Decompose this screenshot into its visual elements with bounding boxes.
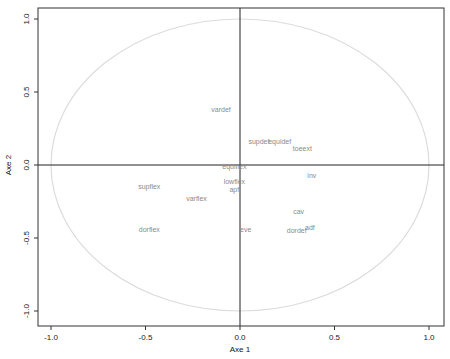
variable-label-dorflex: dorflex	[139, 226, 161, 233]
x-tick-label: -1.0	[44, 333, 58, 342]
variable-label-apf: apf	[229, 186, 239, 194]
variable-label-lowflex: lowflex	[224, 178, 246, 185]
x-tick-label: 0.0	[234, 333, 246, 342]
variable-label-cav: cav	[293, 208, 304, 215]
y-axis-title: Axe 2	[4, 154, 13, 175]
y-tick-label: -1.0	[22, 304, 31, 318]
x-tick-label: 1.0	[423, 333, 435, 342]
y-tick-label: 0.5	[22, 86, 31, 98]
variable-label-toeext: toeext	[293, 145, 312, 152]
variable-label-supflex: supflex	[138, 183, 161, 191]
y-tick-label: 1.0	[22, 13, 31, 25]
x-tick-label: 0.5	[329, 333, 341, 342]
x-axis-title: Axe 1	[230, 345, 251, 354]
variable-label-vardef: vardef	[211, 106, 231, 113]
variable-label-equidef: equidef	[268, 138, 291, 146]
y-tick-label: 0.0	[22, 159, 31, 171]
variable-labels: vardefsupdefequideftoeextequiflexinvlowf…	[138, 106, 317, 234]
x-tick-label: -0.5	[139, 333, 153, 342]
y-tick-label: -0.5	[22, 231, 31, 245]
variable-label-dordef: dordef	[287, 227, 307, 234]
variable-label-supdef: supdef	[248, 138, 269, 146]
variable-label-adf: adf	[305, 224, 315, 231]
variable-label-eve: eve	[240, 226, 251, 233]
y-axis-ticks: -1.0-0.50.00.51.0	[22, 13, 38, 318]
variable-label-varflex: varflex	[186, 195, 207, 202]
variable-label-equiflex: equiflex	[222, 163, 247, 171]
correlation-circle-chart: -1.0-0.50.00.51.0 -1.0-0.50.00.51.0 Axe …	[0, 0, 450, 359]
x-axis-ticks: -1.0-0.50.00.51.0	[44, 326, 435, 342]
variable-label-inv: inv	[307, 172, 316, 179]
